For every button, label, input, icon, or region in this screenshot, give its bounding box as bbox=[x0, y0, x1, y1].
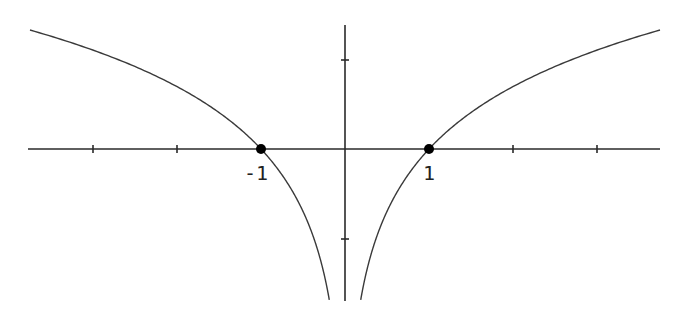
ln-abs-x-plot: -1 1 bbox=[0, 0, 683, 313]
point-x-one bbox=[424, 144, 434, 154]
point-x-neg-one bbox=[256, 144, 266, 154]
curve-positive-branch bbox=[361, 30, 660, 300]
label-pos-one: 1 bbox=[423, 161, 435, 185]
curve-negative-branch bbox=[30, 30, 329, 300]
label-neg-one: -1 bbox=[244, 161, 268, 185]
